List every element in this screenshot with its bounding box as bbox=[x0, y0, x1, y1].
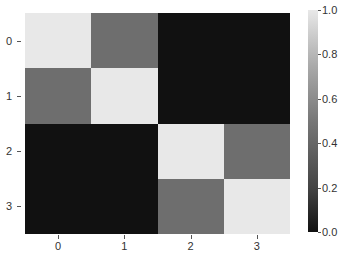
heatmap-cell-1-1 bbox=[91, 68, 157, 123]
y-tick-label: 3 bbox=[6, 200, 12, 212]
x-tick-label: 3 bbox=[247, 240, 267, 252]
x-tick-label: 2 bbox=[181, 240, 201, 252]
heatmap-cell-1-2 bbox=[158, 68, 224, 123]
heatmap-cell-3-1 bbox=[91, 179, 157, 234]
heatmap-cell-2-1 bbox=[91, 124, 157, 179]
heatmap-cell-3-0 bbox=[25, 179, 91, 234]
colorbar-tick-label: 0.4 bbox=[322, 137, 337, 149]
y-tick-label: 2 bbox=[6, 145, 12, 157]
heatmap-cell-1-3 bbox=[224, 68, 290, 123]
y-tick-label: 1 bbox=[6, 90, 12, 102]
y-tick-label: 0 bbox=[6, 35, 12, 47]
heatmap-cell-2-0 bbox=[25, 124, 91, 179]
colorbar-tick-label: 0.6 bbox=[322, 93, 337, 105]
colorbar-tick-label: 0.2 bbox=[322, 182, 337, 194]
heatmap-cell-0-1 bbox=[91, 13, 157, 68]
colorbar-tick-label: 0.0 bbox=[322, 226, 337, 238]
heatmap-cell-0-0 bbox=[25, 13, 91, 68]
heatmap-cell-2-2 bbox=[158, 124, 224, 179]
heatmap-cell-1-0 bbox=[25, 68, 91, 123]
heatmap-cell-0-3 bbox=[224, 13, 290, 68]
heatmap-cell-2-3 bbox=[224, 124, 290, 179]
heatmap-plot-area bbox=[25, 13, 290, 234]
x-tick-label: 0 bbox=[48, 240, 68, 252]
colorbar-tick-label: 0.8 bbox=[322, 48, 337, 60]
heatmap-cell-3-3 bbox=[224, 179, 290, 234]
colorbar-tick-label: 1.0 bbox=[322, 4, 337, 16]
heatmap-cell-0-2 bbox=[158, 13, 224, 68]
x-tick-label: 1 bbox=[114, 240, 134, 252]
colorbar bbox=[308, 10, 318, 232]
heatmap-cell-3-2 bbox=[158, 179, 224, 234]
